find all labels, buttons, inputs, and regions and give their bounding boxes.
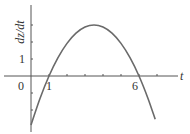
tick-group [31, 25, 157, 110]
series-line-dzdt [31, 25, 155, 125]
y-axis-label: dz/dt [13, 20, 27, 44]
y-tick-label: 1 [19, 52, 25, 66]
tick-label-group: 161 [19, 52, 138, 93]
chart: t dz/dt 0 161 [0, 0, 190, 134]
x-tick-label: 6 [132, 79, 138, 93]
x-tick-label: 1 [46, 79, 52, 93]
origin-label: 0 [18, 79, 24, 93]
x-axis-label: t [180, 69, 184, 83]
